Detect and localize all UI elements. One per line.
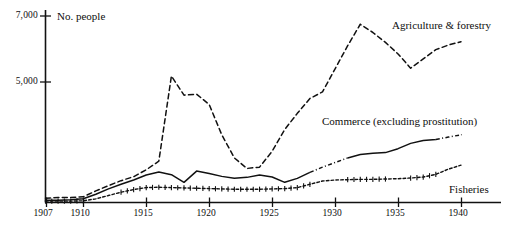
x-tick-label-1935: 1935 — [386, 209, 405, 219]
series-label-commerce: Commerce (excluding prostitution) — [322, 116, 477, 127]
series-label-fisheries: Fisheries — [449, 184, 489, 195]
axis-lines — [46, 10, 502, 203]
series-line-agriculture-forestry — [46, 24, 462, 198]
line-chart: 7,000 5,000 1907 1910 1915 1920 1925 193… — [0, 0, 507, 243]
y-tick-label-7000: 7,000 — [6, 11, 38, 21]
x-tick-label-1930: 1930 — [323, 209, 342, 219]
x-tick-label-1925: 1925 — [260, 209, 279, 219]
x-tick-label-1907: 1907 — [34, 209, 53, 219]
x-tick-label-1915: 1915 — [134, 209, 153, 219]
series-label-agriculture-forestry: Agriculture & forestry — [392, 20, 491, 31]
series-paths — [46, 24, 462, 201]
x-tick-label-1920: 1920 — [197, 209, 216, 219]
y-tick-label-5000: 5,000 — [6, 77, 38, 87]
y-axis-title: No. people — [57, 11, 105, 22]
series-line-fisheries — [46, 165, 462, 201]
x-tick-label-1940: 1940 — [449, 209, 468, 219]
x-tick-label-1910: 1910 — [71, 209, 90, 219]
